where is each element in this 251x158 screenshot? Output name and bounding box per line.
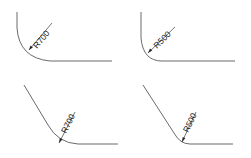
dimension-arrow bbox=[59, 138, 62, 143]
figure-bottom-right: R500 bbox=[143, 85, 233, 144]
radius-label: R700 bbox=[31, 28, 52, 50]
fillet-curve bbox=[17, 12, 112, 61]
figure-top-right: R500 bbox=[141, 12, 235, 61]
fillet-radius-diagram: R700 R500 R700 R500 bbox=[0, 0, 251, 158]
figure-bottom-left: R700 bbox=[24, 85, 118, 144]
dimension-arrow bbox=[182, 137, 185, 142]
fillet-curve bbox=[141, 12, 235, 61]
radius-label: R700 bbox=[59, 112, 77, 135]
figure-top-left: R700 bbox=[17, 12, 112, 61]
radius-label: R500 bbox=[181, 111, 199, 134]
